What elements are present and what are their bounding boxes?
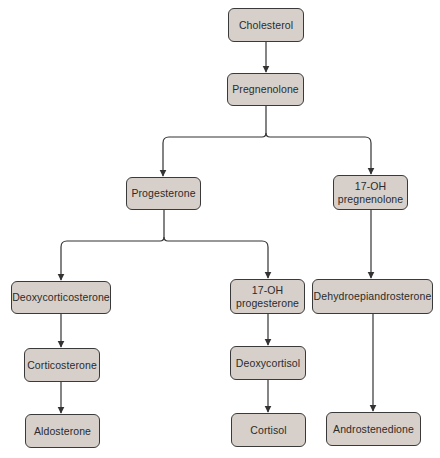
connector-pregnenolone-right <box>266 133 371 174</box>
node-deoxycortisol: Deoxycortisol <box>230 346 306 380</box>
node-androstenedione: Androstenedione <box>326 412 421 446</box>
node-label-line2: progesterone <box>236 297 299 310</box>
node-label: Deoxycorticosterone <box>12 291 110 304</box>
connector-pregnenolone-trunk <box>163 105 266 176</box>
node-dehydroepiandrosterone: Dehydroepiandrosterone <box>312 279 433 314</box>
node-label: Corticosterone <box>27 359 97 372</box>
node-cholesterol: Cholesterol <box>228 8 304 42</box>
node-pregnenolone: Pregnenolone <box>227 73 304 106</box>
node-label: Cholesterol <box>239 19 293 32</box>
node-label: Aldosterone <box>34 425 91 438</box>
node-label: Androstenedione <box>333 423 414 436</box>
connector-progesterone-right <box>164 237 268 278</box>
node-label-line2: pregnenolone <box>338 193 403 206</box>
pathway-connectors <box>0 0 440 458</box>
node-label: Dehydroepiandrosterone <box>314 290 432 303</box>
node-corticosterone: Corticosterone <box>24 348 100 382</box>
node-deoxycorticosterone: Deoxycorticosterone <box>11 281 111 314</box>
node-label: Progesterone <box>131 187 195 200</box>
node-label-line1: 17-OH <box>252 284 283 297</box>
node-label: Pregnenolone <box>232 83 299 96</box>
node-label: Cortisol <box>250 424 286 437</box>
node-cortisol: Cortisol <box>231 413 306 447</box>
node-17oh-pregnenolone: 17-OH pregnenolone <box>333 175 408 210</box>
node-progesterone: Progesterone <box>126 177 201 210</box>
node-17oh-progesterone: 17-OH progesterone <box>230 279 305 314</box>
connector-progesterone-left <box>61 209 164 280</box>
node-label-line1: 17-OH <box>355 180 386 193</box>
node-aldosterone: Aldosterone <box>25 414 100 448</box>
node-label: Deoxycortisol <box>236 357 300 370</box>
